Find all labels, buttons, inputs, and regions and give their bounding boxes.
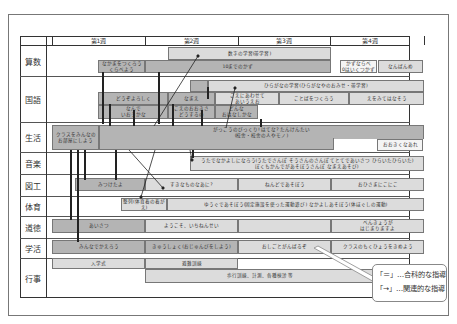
legend-integrated: 「＝」…合科的な指導 xyxy=(376,267,443,283)
row-divider xyxy=(20,76,410,77)
legend-related: 「→」…関連的な指導 xyxy=(376,283,443,295)
week-1-label: 第1週 xyxy=(52,36,145,45)
row-divider xyxy=(20,122,410,123)
bar-kokugo-koe-ni: こえにあわせて あいうえお xyxy=(215,92,279,105)
bar-zukou-nendo: ねんどであそぼう xyxy=(238,178,331,191)
integration-line xyxy=(70,150,72,220)
bar-sansu-narabikata: なかまをつくろう くらべよう xyxy=(98,60,145,73)
bar-seikatsu-class-minna: クラスをみんなの お部屋にしよう xyxy=(52,125,99,150)
bar-kokugo-hiragana: ひらがなの学習(ひらがなやのおみせ・帯学習) xyxy=(208,80,424,92)
bar-kokugo-hiragana-start xyxy=(190,80,208,92)
bar-taiiku-yuugu: ゆうぐであそぼう(固定施設を使った運動遊び) なかよしあそぼう(体ほぐしの運動) xyxy=(167,198,424,211)
bar-kokugo-koe-no: こえのおおきさ どうするの xyxy=(168,105,215,119)
bar-sansu-kazu-narabe: かずならべ 0はいくつかず xyxy=(340,60,377,73)
integration-line xyxy=(201,110,203,126)
week-4-label: 第4週 xyxy=(330,36,410,45)
subject-doutoku: 道徳 xyxy=(20,216,46,238)
bar-doutoku-benkyou: べんきょうが はじまりますよ xyxy=(331,219,424,233)
subject-gakkatsu: 学活 xyxy=(20,238,46,258)
subject-seikatsu: 生活 xyxy=(20,122,46,152)
bar-zukou-ohisama: おひさまにこにこ xyxy=(331,178,424,191)
week-2-label: 第2週 xyxy=(145,36,238,45)
bar-gyouji-hinan: 避難訓練 xyxy=(145,258,238,269)
bar-sansu-ten-made: 10までのかず xyxy=(145,60,331,73)
subject-column-divider xyxy=(46,36,47,298)
bar-zukou-sukina: すきなものなあに? xyxy=(145,178,238,191)
integration-line xyxy=(158,72,160,124)
bar-kokugo-donna: どんな おはなしかな xyxy=(215,105,258,119)
integration-line xyxy=(192,150,194,158)
subject-zukou: 図工 xyxy=(20,174,46,196)
integration-line xyxy=(207,87,209,99)
integration-line xyxy=(77,150,79,242)
subject-sansu: 算数 xyxy=(20,46,46,76)
integration-line xyxy=(133,110,135,126)
bar-doutoku-aisatsu: あいさつ xyxy=(52,219,145,233)
subject-ongaku: 音楽 xyxy=(20,152,46,174)
bar-seikatsu-gakkou: がっこうのびっくり! はてな? たんけんたい (校舎・校舎の人やモノ) xyxy=(99,125,424,139)
integration-line xyxy=(84,150,86,180)
bar-ongaku-uta: うたでなかよしになろう(うたでさんぽ そうさんのさんぽ てとてであいさつ ひらい… xyxy=(190,156,424,171)
subject-taiiku: 体育 xyxy=(20,196,46,216)
bar-gyouji-nyuugakushiki: 入学式 xyxy=(52,258,145,269)
bar-sansu-kazu: 数字の学習(帯学習) xyxy=(168,47,331,60)
bar-doutoku-blank xyxy=(238,219,331,233)
subject-kokugo: 国語 xyxy=(20,76,46,122)
bar-kokugo-e-wo-mite: えをみてはなそう xyxy=(349,92,424,105)
integration-line xyxy=(172,104,174,126)
integration-line xyxy=(109,104,111,126)
week-3-label: 第3週 xyxy=(238,36,330,45)
subject-gyouji: 行事 xyxy=(20,258,46,298)
bar-gyouji-hokou: 歩行訓練、計測、各種検診 等 xyxy=(145,269,375,283)
header-divider xyxy=(20,45,410,46)
bar-kokugo-kotoba: ことばをつくろう xyxy=(279,92,349,105)
bar-gakkatsu-minna-de: みんなでかえろう xyxy=(52,240,145,254)
integration-line xyxy=(102,72,104,124)
legend-box: 「＝」…合科的な指導 「→」…関連的な指導 xyxy=(372,264,447,302)
bar-gakkatsu-oshigoto: おしごとがんばるぞ xyxy=(238,240,331,254)
bar-gakkatsu-kyuushoku: きゅうしょく(おじゅんびをしよう) xyxy=(145,240,238,254)
bar-seikatsu-gakkou-lower xyxy=(99,138,334,150)
week-divider xyxy=(424,36,425,45)
bar-seikatsu-ookiku: おおきくなあれ xyxy=(377,139,423,151)
bar-doutoku-youkoso: ようこそ、いちねんせい xyxy=(145,219,238,233)
integration-line xyxy=(115,150,117,180)
bar-gakkatsu-class-mokuhyou: クラスのもくひょうをきめよう xyxy=(331,240,424,254)
bar-sansu-nanbanme: なんばんめ xyxy=(378,60,423,73)
bar-taiiku-seiretsu: 整列(体育着の着がえ) xyxy=(121,198,167,211)
integration-line xyxy=(260,119,262,127)
